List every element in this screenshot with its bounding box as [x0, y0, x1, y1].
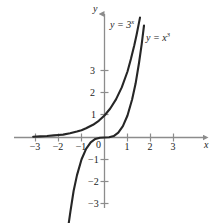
- plot-canvas: [0, 0, 219, 223]
- curve-label-exponential-text: y = 3: [110, 19, 131, 30]
- y-tick-label-neg1: −1: [88, 155, 99, 165]
- x-tick-label-2: 2: [148, 142, 153, 152]
- curve-label-exponential-exponent: x: [131, 18, 134, 25]
- x-tick-label-neg3: −3: [30, 142, 41, 152]
- y-tick-label-2: 2: [90, 88, 95, 98]
- origin-label: 0: [96, 140, 101, 150]
- y-tick-label-neg3: −3: [88, 199, 99, 209]
- x-axis-label: x: [204, 140, 208, 150]
- curve-label-cubic-text: y = x: [146, 32, 167, 43]
- y-axis-label: y: [93, 4, 97, 14]
- curve-label-exponential: y = 3x: [110, 20, 134, 30]
- graph-figure: y x 0 −3 −2 −1 1 2 3 3 2 1 −1 −2 −3 y = …: [0, 0, 219, 223]
- y-tick-label-3: 3: [90, 66, 95, 76]
- x-tick-label-neg2: −2: [53, 142, 64, 152]
- y-tick-label-1: 1: [91, 110, 96, 120]
- curve-exponential: [33, 18, 140, 137]
- curve-label-cubic: y = x3: [146, 33, 170, 43]
- curve-label-cubic-exponent: 3: [167, 31, 170, 38]
- x-tick-label-1: 1: [125, 142, 130, 152]
- x-tick-label-3: 3: [171, 142, 176, 152]
- y-tick-label-neg2: −2: [88, 177, 99, 187]
- x-tick-label-neg1: −1: [76, 142, 87, 152]
